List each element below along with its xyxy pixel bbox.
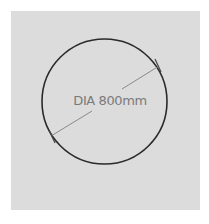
dimension-label: DIA 800mm xyxy=(70,93,150,108)
dimension-line-lower xyxy=(51,111,92,136)
circle-drawing xyxy=(0,0,209,224)
dimension-line-upper xyxy=(122,66,159,89)
tick-mark-lower xyxy=(49,130,55,143)
